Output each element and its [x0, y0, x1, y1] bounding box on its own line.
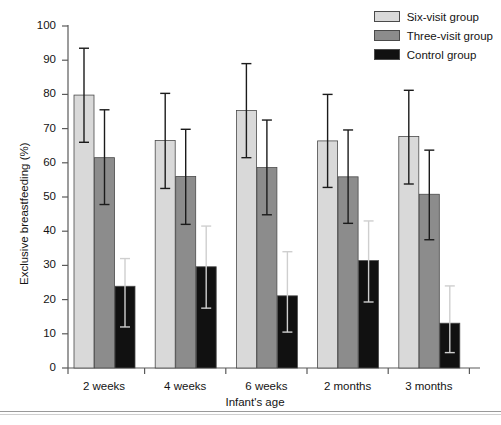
footer-rule-secondary — [0, 414, 501, 415]
y-tick-label: 0 — [30, 361, 56, 373]
y-tick-label: 70 — [30, 122, 56, 134]
x-tick-label: 4 weeks — [145, 380, 225, 392]
y-axis-label: Exclusive breastfeeding (%) — [18, 142, 30, 285]
x-axis-label: Infant's age — [185, 396, 325, 408]
plot-svg — [0, 0, 501, 425]
footer-rule — [0, 411, 501, 412]
y-tick-label: 100 — [30, 19, 56, 31]
x-tick-label: 2 months — [308, 380, 388, 392]
y-tick-label: 40 — [30, 224, 56, 236]
y-tick-label: 60 — [30, 156, 56, 168]
x-tick-label: 3 months — [389, 380, 469, 392]
x-tick-label: 6 weeks — [226, 380, 306, 392]
y-tick-label: 90 — [30, 53, 56, 65]
x-tick-label: 2 weeks — [64, 380, 144, 392]
y-tick-label: 10 — [30, 327, 56, 339]
y-tick-label: 50 — [30, 190, 56, 202]
y-tick-label: 20 — [30, 293, 56, 305]
chart-figure: Six-visit group Three-visit group Contro… — [0, 0, 501, 425]
plot-area — [0, 0, 501, 425]
y-tick-label: 80 — [30, 87, 56, 99]
y-tick-label: 30 — [30, 258, 56, 270]
